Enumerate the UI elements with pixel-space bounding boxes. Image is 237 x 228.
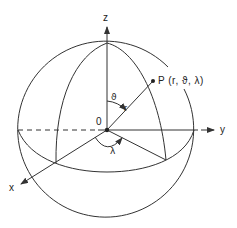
x-axis — [21, 130, 107, 184]
origin-label: 0 — [96, 117, 102, 127]
origin-point — [105, 128, 109, 132]
point-p-label: P (r, ϑ, λ) — [158, 76, 204, 86]
lambda-arc — [95, 137, 122, 147]
diagram-graphic — [0, 0, 237, 228]
x-axis-label: x — [9, 183, 14, 193]
radius-label: r — [124, 104, 127, 113]
lambda-label: λ — [110, 147, 115, 156]
meridian-left — [56, 43, 107, 163]
radius-line — [107, 81, 153, 130]
y-axis-label: y — [220, 125, 225, 135]
spherical-coordinates-diagram: z y x 0 P (r, ϑ, λ) r ϑ λ — [0, 0, 237, 228]
z-axis-label: z — [103, 13, 108, 23]
azimuth-line — [107, 130, 166, 160]
equator-front — [18, 130, 194, 172]
theta-label: ϑ — [111, 93, 117, 102]
point-p — [151, 79, 155, 83]
